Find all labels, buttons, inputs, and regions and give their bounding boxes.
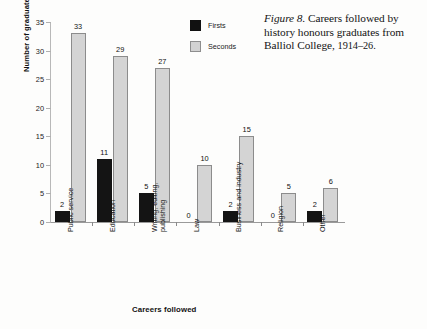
x-axis-category-label: Other <box>319 214 327 232</box>
x-axis-category-label: Writing, editing,publishing <box>151 183 168 232</box>
y-axis-tick-label: 25 <box>22 75 44 84</box>
x-axis-category-label: Religion <box>277 206 285 232</box>
y-axis-tick-label: 5 <box>22 189 44 198</box>
x-axis-title: Careers followed <box>132 305 196 314</box>
y-axis-tick <box>46 136 51 137</box>
x-axis-category-label: Business and industry <box>235 162 243 232</box>
y-axis-tick <box>46 193 51 194</box>
x-axis-category-label: Public service <box>67 188 75 232</box>
bar-seconds <box>197 165 212 222</box>
x-axis-category-line: Religion <box>276 206 285 232</box>
bar-value-label-seconds: 5 <box>277 182 300 191</box>
x-axis-group-tick <box>219 222 220 226</box>
y-axis-tick <box>46 165 51 166</box>
figure-container: Figure 8. Careers followed by history ho… <box>0 0 427 329</box>
y-axis-line <box>50 22 51 222</box>
x-axis-category-line: Business and industry <box>234 162 243 232</box>
x-axis-group-tick <box>92 222 93 226</box>
y-axis-tick-label: 15 <box>22 132 44 141</box>
y-axis-tick-label: 0 <box>22 218 44 227</box>
bar-value-label-seconds: 6 <box>319 177 342 186</box>
y-axis-tick <box>46 22 51 23</box>
x-axis-group-tick <box>261 222 262 226</box>
x-axis-category-label: Law <box>193 219 201 232</box>
x-axis-category-line: Education <box>108 200 117 232</box>
bar-value-label-seconds: 33 <box>67 22 90 31</box>
x-axis-group-tick <box>303 222 304 226</box>
y-axis-tick <box>46 108 51 109</box>
x-axis-category-line: Other <box>318 214 327 232</box>
x-axis-group-tick <box>134 222 135 226</box>
x-axis-category-line: Law <box>192 219 201 232</box>
bar-value-label-seconds: 15 <box>235 125 258 134</box>
x-axis-group-tick <box>176 222 177 226</box>
plot-area: 05101520253035 23311295270102150526 <box>50 22 345 222</box>
y-axis-tick <box>46 51 51 52</box>
y-axis-tick <box>46 79 51 80</box>
bar-value-label-seconds: 29 <box>109 45 132 54</box>
bar-value-label-seconds: 27 <box>151 57 174 66</box>
bar-value-label-seconds: 10 <box>193 154 216 163</box>
x-axis-category-line: Public service <box>66 188 75 232</box>
bar-seconds <box>113 56 128 222</box>
x-axis-category-label: Education <box>109 200 117 232</box>
y-axis-title: Number of graduates <box>22 0 31 72</box>
y-axis-tick-label: 10 <box>22 161 44 170</box>
y-axis-tick-label: 20 <box>22 104 44 113</box>
x-axis-category-line: publishing <box>159 183 167 232</box>
y-axis-tick <box>46 222 51 223</box>
